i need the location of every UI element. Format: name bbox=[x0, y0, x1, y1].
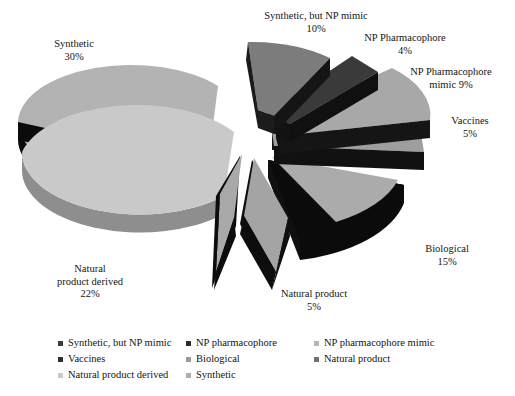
legend-column-3: NP pharmacophore mimic Natural product bbox=[314, 336, 434, 368]
legend-swatch-icon bbox=[186, 357, 191, 362]
legend-item-natural-product[interactable]: Natural product bbox=[314, 352, 434, 367]
legend-item-label: Synthetic, but NP mimic bbox=[68, 337, 171, 349]
data-label-synthetic: Synthetic 30% bbox=[14, 38, 134, 63]
legend-item-np-pharmacophore-mimic[interactable]: NP pharmacophore mimic bbox=[314, 336, 434, 351]
legend-item-label: NP pharmacophore bbox=[196, 337, 277, 349]
data-label-natural-product-percent: 5% bbox=[248, 301, 380, 314]
legend-swatch-icon bbox=[58, 373, 63, 378]
legend-item-label: Natural product derived bbox=[68, 369, 168, 381]
pie-chart-figure: Synthetic 30% Natural product derived 22… bbox=[0, 0, 515, 396]
data-label-np-pharmacophore-percent: 4% bbox=[320, 45, 490, 58]
slice-biological bbox=[268, 157, 404, 260]
legend-column-1: Synthetic, but NP mimic Vaccines Natural… bbox=[58, 336, 171, 384]
data-label-natural-product-derived-line2: product derived bbox=[10, 276, 170, 289]
legend-item-vaccines[interactable]: Vaccines bbox=[58, 352, 171, 367]
chart-legend: Synthetic, but NP mimic Vaccines Natural… bbox=[0, 336, 515, 394]
data-label-vaccines: Vaccines 5% bbox=[432, 115, 508, 140]
legend-swatch-icon bbox=[186, 373, 191, 378]
data-label-synthetic-but-np-mimic-text: Synthetic, but NP mimic bbox=[264, 10, 367, 21]
legend-item-label: Synthetic bbox=[196, 369, 236, 381]
data-label-np-pharmacophore: NP Pharmacophore 4% bbox=[320, 32, 490, 57]
legend-swatch-icon bbox=[314, 357, 319, 362]
legend-column-2: NP pharmacophore Biological Synthetic bbox=[186, 336, 277, 384]
data-label-np-pharmacophore-mimic-line2: mimic 9% bbox=[392, 79, 510, 92]
legend-swatch-icon bbox=[314, 341, 319, 346]
legend-item-label: Biological bbox=[196, 353, 240, 365]
legend-swatch-icon bbox=[186, 341, 191, 346]
data-label-natural-product-derived-percent: 22% bbox=[10, 288, 170, 301]
legend-item-synthetic[interactable]: Synthetic bbox=[186, 368, 277, 383]
legend-item-label: NP pharmacophore mimic bbox=[324, 337, 434, 349]
data-label-biological-text: Biological bbox=[425, 243, 469, 254]
data-label-synthetic-percent: 30% bbox=[14, 51, 134, 64]
data-label-np-pharmacophore-mimic: NP Pharmacophore mimic 9% bbox=[392, 66, 510, 91]
data-label-natural-product-derived-line1: Natural bbox=[74, 263, 106, 274]
legend-item-biological[interactable]: Biological bbox=[186, 352, 277, 367]
data-label-biological-percent: 15% bbox=[398, 256, 496, 269]
data-label-biological: Biological 15% bbox=[398, 243, 496, 268]
legend-swatch-icon bbox=[58, 341, 63, 346]
slice-natural-product-derived bbox=[22, 105, 234, 233]
data-label-vaccines-percent: 5% bbox=[432, 128, 508, 141]
data-label-natural-product-text: Natural product bbox=[281, 288, 347, 299]
legend-swatch-icon bbox=[58, 357, 63, 362]
data-label-vaccines-text: Vaccines bbox=[451, 115, 488, 126]
data-label-np-pharmacophore-text: NP Pharmacophore bbox=[364, 32, 446, 43]
data-label-np-pharmacophore-mimic-line1: NP Pharmacophore bbox=[410, 66, 492, 77]
legend-item-natural-product-derived[interactable]: Natural product derived bbox=[58, 368, 171, 383]
legend-item-label: Vaccines bbox=[68, 353, 105, 365]
legend-item-label: Natural product bbox=[324, 353, 390, 365]
legend-item-np-pharmacophore[interactable]: NP pharmacophore bbox=[186, 336, 277, 351]
data-label-natural-product-derived: Natural product derived 22% bbox=[10, 263, 170, 301]
data-label-natural-product: Natural product 5% bbox=[248, 288, 380, 313]
data-label-synthetic-text: Synthetic bbox=[54, 38, 94, 49]
legend-item-synthetic-but-np-mimic[interactable]: Synthetic, but NP mimic bbox=[58, 336, 171, 351]
